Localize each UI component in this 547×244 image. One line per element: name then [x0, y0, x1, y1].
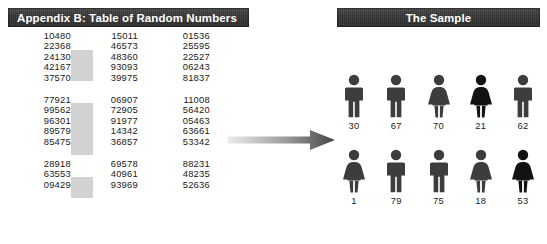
sample-people-panel: 3067702162179751853 — [337, 74, 540, 206]
number-cell: 36857 — [71, 137, 142, 147]
number-cell: 93969 — [71, 180, 142, 190]
female-figure-icon — [510, 149, 536, 193]
number-cell: 14342 — [71, 126, 142, 136]
male-figure-icon — [341, 74, 367, 118]
person-female: 18 — [464, 149, 498, 206]
person-female: 1 — [337, 149, 371, 206]
male-figure-icon — [383, 149, 409, 193]
person-male: 75 — [422, 149, 456, 206]
number-block: 7792106907110089956272905564209630191977… — [0, 95, 240, 147]
number-cell: 42167 — [0, 62, 71, 72]
person-female: 21 — [464, 74, 498, 131]
arrow-right-icon — [228, 129, 336, 151]
female-figure-icon — [468, 74, 494, 118]
number-cell: 93093 — [71, 62, 142, 72]
female-figure-icon — [426, 74, 452, 118]
people-row-spacer — [337, 131, 540, 149]
number-block: 2891869578882316355340961482350942993969… — [0, 159, 240, 190]
number-block: 1048015011015362236846573255952413048360… — [0, 31, 240, 83]
sample-header-title: The Sample — [406, 12, 472, 24]
number-cell: 63661 — [142, 126, 212, 136]
number-row: 421679309306243 — [0, 62, 240, 72]
sample-header-bar: The Sample — [337, 8, 540, 27]
person-female: 70 — [422, 74, 456, 131]
number-row: 375703997581837 — [0, 73, 240, 83]
female-figure-icon — [341, 149, 367, 193]
person-label: 62 — [518, 121, 529, 131]
appendix-header-title: Appendix B: Table of Random Numbers — [17, 12, 237, 24]
number-row: 854753685753342 — [0, 137, 240, 147]
appendix-header-bar: Appendix B: Table of Random Numbers — [8, 8, 249, 27]
number-cell: 39975 — [71, 73, 142, 83]
people-row: 3067702162 — [337, 74, 540, 131]
number-cell: 52636 — [142, 180, 212, 190]
person-label: 18 — [475, 196, 486, 206]
number-row: 895791434263661 — [0, 126, 240, 136]
person-male: 30 — [337, 74, 371, 131]
female-figure-icon — [468, 149, 494, 193]
person-male: 67 — [379, 74, 413, 131]
number-cell: 81837 — [142, 73, 212, 83]
number-cell: 85475 — [0, 137, 71, 147]
person-male: 62 — [506, 74, 540, 131]
number-cell: 89579 — [0, 126, 71, 136]
person-female: 53 — [506, 149, 540, 206]
person-label: 30 — [349, 121, 360, 131]
person-male: 79 — [379, 149, 413, 206]
person-label: 75 — [433, 196, 444, 206]
male-figure-icon — [510, 74, 536, 118]
male-figure-icon — [426, 149, 452, 193]
person-label: 1 — [351, 196, 356, 206]
person-label: 21 — [475, 121, 486, 131]
male-figure-icon — [383, 74, 409, 118]
number-row: 094299396952636 — [0, 180, 240, 190]
people-row: 179751853 — [337, 149, 540, 206]
person-label: 67 — [391, 121, 402, 131]
number-cell: 37570 — [0, 73, 71, 83]
number-cell: 53342 — [142, 137, 212, 147]
number-cell: 06243 — [142, 62, 212, 72]
number-cell: 09429 — [0, 180, 71, 190]
random-number-blocks: 1048015011015362236846573255952413048360… — [0, 31, 240, 190]
random-number-table: 1048015011015362236846573255952413048360… — [0, 31, 240, 190]
person-label: 70 — [433, 121, 444, 131]
person-label: 53 — [518, 196, 529, 206]
person-label: 79 — [391, 196, 402, 206]
